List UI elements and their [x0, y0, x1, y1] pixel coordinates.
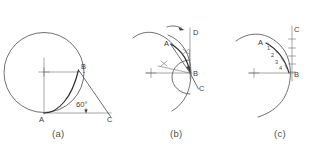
panel-a-label-A: A — [39, 115, 44, 124]
panel-b-rotation-arrow-icon — [167, 26, 185, 31]
panel-b-label-D: D — [193, 28, 199, 37]
panel-b: A B C D (b) — [133, 26, 205, 139]
panel-a-label-C: C — [107, 115, 113, 124]
figure-root: A B C 60° (a) — [0, 0, 316, 153]
panel-a-caption: (a) — [52, 128, 65, 139]
panel-b-label-B: B — [193, 69, 198, 78]
panel-b-tick-upper-icon — [183, 49, 189, 54]
panel-b-ray-lower — [158, 66, 190, 73]
panel-c-division-3: 3 — [275, 59, 278, 65]
panel-b-label-C: C — [199, 84, 205, 93]
panel-c-caption: (c) — [274, 128, 286, 139]
panel-b-small-arc — [172, 60, 190, 94]
panel-c-label-A: A — [258, 38, 263, 47]
panel-c-label-C: C — [294, 25, 300, 34]
panel-a: A B C 60° (a) — [4, 33, 113, 140]
panel-c-division-1: 1 — [267, 45, 270, 51]
panel-a-label-B: B — [81, 62, 86, 71]
panel-b-label-A: A — [164, 39, 169, 48]
panel-a-angle-arrowhead — [84, 109, 88, 113]
panel-b-caption: (b) — [170, 128, 183, 139]
panel-b-tick-lower-icon — [161, 61, 167, 66]
panel-a-hypotenuse — [79, 70, 111, 117]
panel-c-label-B: B — [294, 70, 299, 79]
panel-a-angle-label: 60° — [76, 100, 87, 109]
panel-c: A B C 1 2 3 4 (c) — [236, 25, 300, 139]
panel-b-chord-BA — [171, 44, 191, 73]
panel-a-tangent-arc — [44, 70, 79, 113]
panel-c-division-4: 4 — [279, 65, 282, 71]
construction-figure: A B C 60° (a) — [0, 0, 316, 153]
panel-c-division-2: 2 — [271, 52, 274, 58]
